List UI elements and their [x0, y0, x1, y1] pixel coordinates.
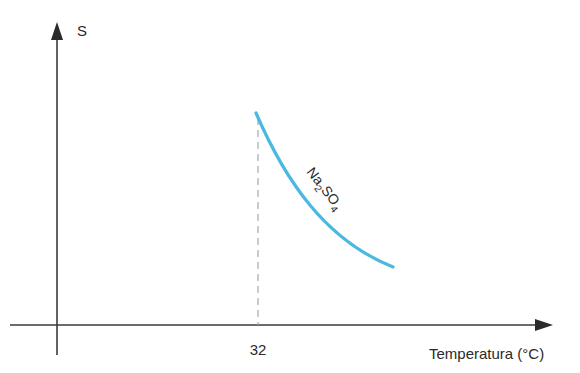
curve-label: Na2SO4	[301, 164, 347, 215]
x-tick-label: 32	[250, 341, 267, 358]
svg-text:Na2SO4: Na2SO4	[301, 164, 347, 215]
y-axis-arrow-icon	[51, 22, 63, 40]
x-axis	[10, 319, 553, 331]
chart-canvas: S Temperatura (°C) 32 Na2SO4	[0, 0, 580, 373]
x-axis-label: Temperatura (°C)	[429, 345, 544, 362]
solubility-chart: S Temperatura (°C) 32 Na2SO4	[0, 0, 580, 373]
y-axis-label: S	[77, 22, 87, 39]
x-axis-arrow-icon	[535, 319, 553, 331]
curve-label-na: Na	[304, 164, 328, 188]
y-axis	[51, 22, 63, 355]
